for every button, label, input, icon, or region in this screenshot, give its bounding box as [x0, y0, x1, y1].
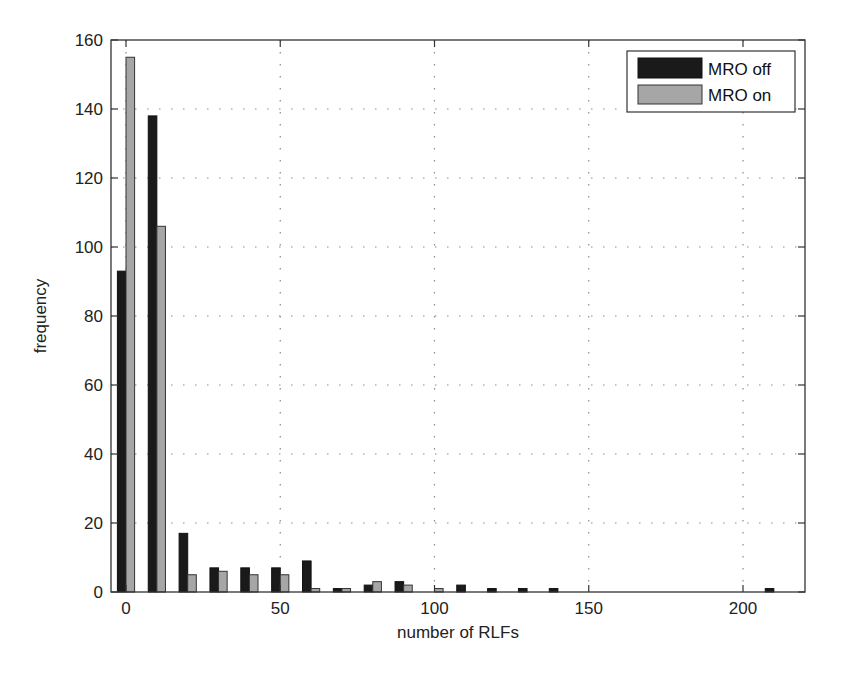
- bar-mro-on: [373, 582, 382, 592]
- legend-label-mro-on: MRO on: [708, 86, 771, 105]
- bar-mro-off: [117, 271, 126, 592]
- bar-mro-off: [457, 585, 466, 592]
- legend-label-mro-off: MRO off: [708, 60, 771, 79]
- bar-mro-off: [272, 568, 281, 592]
- x-tick-label: 100: [420, 599, 448, 618]
- bar-mro-off: [210, 568, 219, 592]
- bar-mro-off: [395, 582, 404, 592]
- x-tick-label: 200: [729, 599, 757, 618]
- bar-mro-on: [188, 575, 197, 592]
- y-tick-label: 20: [84, 514, 103, 533]
- y-tick-label: 160: [75, 31, 103, 50]
- bar-mro-off: [179, 533, 188, 592]
- legend-swatch-mro-off: [638, 58, 702, 78]
- bar-mro-on: [249, 575, 258, 592]
- y-tick-label: 80: [84, 307, 103, 326]
- legend-swatch-mro-on: [638, 85, 702, 104]
- bar-mro-off: [364, 585, 373, 592]
- x-tick-label: 50: [271, 599, 290, 618]
- bar-mro-off: [303, 561, 312, 592]
- x-tick-label: 150: [575, 599, 603, 618]
- bar-mro-on: [126, 57, 135, 592]
- y-tick-label: 40: [84, 445, 103, 464]
- y-tick-label: 120: [75, 169, 103, 188]
- bar-mro-on: [404, 585, 413, 592]
- x-axis-label: number of RLFs: [397, 623, 519, 642]
- x-tick-label: 0: [121, 599, 130, 618]
- histogram-chart: 050100150200 020406080100120140160 numbe…: [0, 0, 846, 676]
- y-tick-label: 100: [75, 238, 103, 257]
- bar-mro-off: [241, 568, 250, 592]
- y-tick-label: 0: [94, 583, 103, 602]
- bar-mro-off: [148, 116, 157, 592]
- bar-mro-on: [219, 571, 228, 592]
- y-axis-label: frequency: [31, 278, 50, 353]
- legend: MRO off MRO on: [627, 51, 795, 112]
- y-tick-label: 140: [75, 100, 103, 119]
- y-tick-label: 60: [84, 376, 103, 395]
- bar-mro-on: [157, 226, 166, 592]
- bar-mro-on: [280, 575, 289, 592]
